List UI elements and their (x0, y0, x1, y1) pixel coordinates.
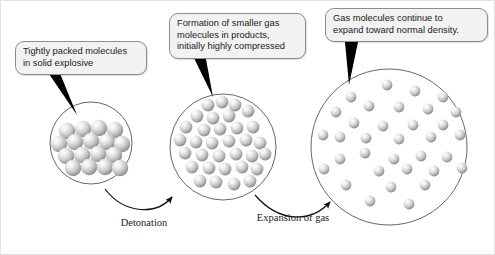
callout-solid-explosive: Tightly packed molecules in solid explos… (15, 41, 147, 75)
callout-gas-formation: Formation of smaller gas molecules in pr… (169, 13, 306, 59)
detonation-arrow (105, 189, 172, 210)
arrow-label-expansion: Expansion of gas (250, 212, 336, 224)
callout-2-pointer (192, 54, 213, 97)
arrow-label-detonation: Detonation (99, 217, 189, 229)
explosive-stages-figure: Tightly packed molecules in solid explos… (0, 0, 495, 255)
callout-gas-expansion: Gas molecules continue to expand toward … (325, 8, 488, 42)
